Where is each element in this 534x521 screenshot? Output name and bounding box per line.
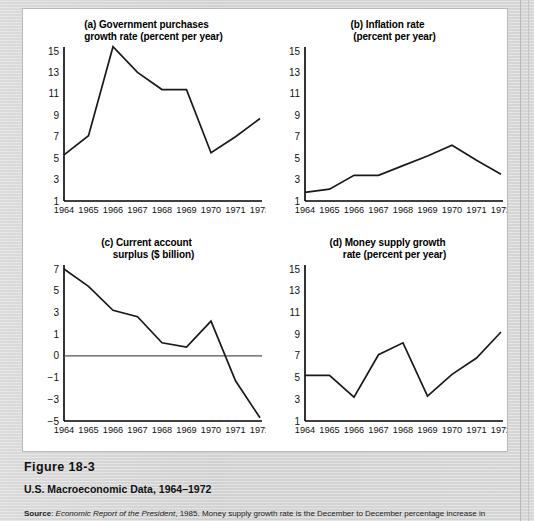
x-tick-label: 1970 [441, 205, 461, 215]
chart-panel-a: (a) Government purchases growth rate (pe… [25, 13, 268, 229]
chart-title-d: (d) Money supply growth rate (percent pe… [268, 231, 507, 261]
figure-number: Figure 18-3 [24, 460, 494, 474]
x-tick-label: 1968 [392, 205, 412, 215]
x-tick-label: 1971 [225, 205, 245, 215]
y-tick-label: 13 [288, 67, 300, 78]
x-tick-label: 1972 [249, 205, 265, 215]
x-tick-label: 1970 [200, 425, 220, 435]
chart-title-b-line1: (b) Inflation rate [351, 19, 425, 30]
figure-caption: Figure 18-3 U.S. Macroeconomic Data, 196… [24, 460, 494, 495]
y-tick-label: 7 [53, 131, 59, 142]
chart-svg-d: 1357911131519641965196619671968196919701… [269, 261, 507, 443]
chart-title-a: (a) Government purchases growth rate (pe… [25, 13, 268, 43]
x-tick-label: 1966 [102, 205, 122, 215]
y-tick-label: 15 [47, 46, 59, 57]
x-tick-label: 1970 [441, 425, 461, 435]
chart-title-b-line2: (percent per year) [268, 31, 507, 43]
y-tick-label: 3 [294, 174, 300, 185]
y-tick-label: 13 [47, 67, 59, 78]
chart-panel-b: (b) Inflation rate (percent per year) 13… [268, 13, 507, 229]
page-margin-rule [520, 0, 521, 521]
x-tick-label: 1969 [417, 205, 437, 215]
data-series-line [305, 145, 501, 192]
y-tick-label: 13 [288, 285, 300, 296]
y-tick-label: 5 [294, 372, 300, 383]
y-tick-label: 11 [289, 307, 300, 318]
chart-svg-c: −5−3−10135719641965196619671968196919701… [28, 261, 266, 443]
y-tick-label: 11 [48, 88, 59, 99]
y-tick-label: −3 [47, 394, 59, 405]
y-tick-label: 0 [53, 350, 59, 361]
x-tick-label: 1969 [176, 425, 196, 435]
y-tick-label: 9 [294, 110, 300, 121]
y-tick-label: 3 [294, 394, 300, 405]
chart-title-b: (b) Inflation rate (percent per year) [268, 13, 507, 43]
x-tick-label: 1968 [151, 425, 171, 435]
x-tick-label: 1966 [343, 425, 363, 435]
chart-svg-b: 1357911131519641965196619671968196919701… [269, 43, 507, 223]
x-tick-label: 1966 [102, 425, 122, 435]
chart-svg-a: 1357911131519641965196619671968196919701… [28, 43, 266, 223]
chart-panel-d: (d) Money supply growth rate (percent pe… [268, 231, 507, 449]
y-tick-label: 5 [53, 285, 59, 296]
y-tick-label: 9 [294, 329, 300, 340]
chart-title-c-line2: surplus ($ billion) [25, 249, 268, 261]
y-tick-label: 9 [53, 110, 59, 121]
x-tick-label: 1967 [127, 205, 147, 215]
chart-title-a-line2: growth rate (percent per year) [25, 31, 268, 43]
data-series-line [64, 269, 260, 418]
y-tick-label: 15 [288, 264, 300, 275]
x-tick-label: 1969 [417, 425, 437, 435]
x-tick-label: 1964 [53, 425, 73, 435]
data-series-line [305, 332, 501, 397]
charts-grid: (a) Government purchases growth rate (pe… [23, 9, 507, 451]
x-tick-label: 1967 [368, 425, 388, 435]
x-tick-label: 1966 [343, 205, 363, 215]
chart-title-d-line2: rate (percent per year) [268, 249, 507, 261]
chart-title-c: (c) Current account surplus ($ billion) [25, 231, 268, 261]
x-tick-label: 1972 [490, 205, 506, 215]
chart-title-d-line1: (d) Money supply growth [329, 237, 445, 248]
x-tick-label: 1971 [466, 205, 486, 215]
x-tick-label: 1968 [151, 205, 171, 215]
x-tick-label: 1965 [78, 425, 98, 435]
x-tick-label: 1965 [78, 205, 98, 215]
page-margin-rule-secondary [528, 0, 529, 521]
y-tick-label: 3 [53, 307, 59, 318]
y-tick-label: 5 [53, 153, 59, 164]
source-publication: Economic Report of the President [56, 509, 176, 518]
x-tick-label: 1968 [392, 425, 412, 435]
x-tick-label: 1970 [200, 205, 220, 215]
x-tick-label: 1967 [368, 205, 388, 215]
y-tick-label: 11 [289, 88, 300, 99]
y-tick-label: 1 [53, 329, 59, 340]
y-tick-label: −1 [47, 372, 59, 383]
x-tick-label: 1971 [225, 425, 245, 435]
x-tick-label: 1971 [466, 425, 486, 435]
data-series-line [64, 47, 260, 155]
y-tick-label: 3 [53, 174, 59, 185]
source-remainder: , 1985. Money supply growth rate is the … [175, 509, 485, 518]
x-tick-label: 1969 [176, 205, 196, 215]
x-tick-label: 1972 [490, 425, 506, 435]
y-tick-label: 5 [294, 153, 300, 164]
figure-title: U.S. Macroeconomic Data, 1964–1972 [24, 483, 494, 495]
chart-title-c-line1: (c) Current account [101, 237, 191, 248]
figure-source: Source: Economic Report of the President… [24, 509, 510, 519]
x-tick-label: 1964 [294, 425, 314, 435]
x-tick-label: 1964 [294, 205, 314, 215]
y-tick-label: 7 [53, 264, 59, 275]
figure-panel: (a) Government purchases growth rate (pe… [22, 8, 508, 452]
y-tick-label: 7 [294, 350, 300, 361]
chart-panel-c: (c) Current account surplus ($ billion) … [25, 231, 268, 449]
x-tick-label: 1964 [53, 205, 73, 215]
source-label: Source [24, 509, 51, 518]
x-tick-label: 1965 [319, 425, 339, 435]
x-tick-label: 1972 [249, 425, 265, 435]
x-tick-label: 1965 [319, 205, 339, 215]
x-tick-label: 1967 [127, 425, 147, 435]
y-tick-label: 15 [288, 46, 300, 57]
y-tick-label: 7 [294, 131, 300, 142]
chart-title-a-line1: (a) Government purchases [84, 19, 208, 30]
